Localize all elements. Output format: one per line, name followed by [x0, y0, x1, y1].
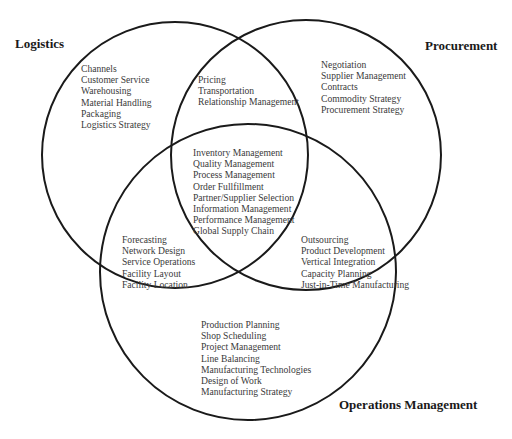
list-item: Manufacturing Technologies	[201, 364, 311, 375]
list-item: Shop Scheduling	[201, 330, 311, 341]
list-item: Negotiation	[321, 59, 406, 70]
list-item: Information Management	[193, 203, 295, 214]
list-item: Capacity Planning	[301, 268, 409, 279]
list-item: Manufacturing Strategy	[201, 386, 311, 397]
operations-only-list: Production Planning Shop Scheduling Proj…	[201, 319, 311, 397]
list-item: Design of Work	[201, 375, 311, 386]
list-item: Partner/Supplier Selection	[193, 192, 295, 203]
list-item: Outsourcing	[301, 234, 409, 245]
list-item: Global Supply Chain	[193, 225, 295, 236]
list-item: Contracts	[321, 81, 406, 92]
list-item: Material Handling	[81, 97, 152, 108]
list-item: Supplier Management	[321, 70, 406, 81]
list-item: Quality Management	[193, 158, 295, 169]
operations-title: Operations Management	[339, 397, 477, 413]
list-item: Vertical Integration	[301, 256, 409, 267]
list-item: Order Fullfillment	[193, 181, 295, 192]
logistics-operations-list: Forecasting Network Design Service Opera…	[122, 234, 195, 290]
procurement-operations-list: Outsourcing Product Development Vertical…	[301, 234, 409, 290]
list-item: Production Planning	[201, 319, 311, 330]
list-item: Project Management	[201, 341, 311, 352]
list-item: Product Development	[301, 245, 409, 256]
list-item: Service Operations	[122, 256, 195, 267]
list-item: Logistics Strategy	[81, 119, 152, 130]
list-item: Channels	[81, 63, 152, 74]
list-item: Transportation	[198, 85, 299, 96]
list-item: Packaging	[81, 108, 152, 119]
list-item: Line Balancing	[201, 353, 311, 364]
procurement-title: Procurement	[425, 38, 497, 54]
list-item: Just-in-Time Manufacturing	[301, 279, 409, 290]
list-item: Procurement Strategy	[321, 104, 406, 115]
list-item: Warehousing	[81, 85, 152, 96]
list-item: Facility Location	[122, 279, 195, 290]
list-item: Network Design	[122, 245, 195, 256]
list-item: Pricing	[198, 74, 299, 85]
logistics-procurement-list: Pricing Transportation Relationship Mana…	[198, 74, 299, 108]
list-item: Customer Service	[81, 74, 152, 85]
logistics-only-list: Channels Customer Service Warehousing Ma…	[81, 63, 152, 130]
list-item: Inventory Management	[193, 147, 295, 158]
all-three-list: Inventory Management Quality Management …	[193, 147, 295, 237]
list-item: Commodity Strategy	[321, 93, 406, 104]
list-item: Relationship Management	[198, 96, 299, 107]
procurement-only-list: Negotiation Supplier Management Contract…	[321, 59, 406, 115]
list-item: Performance Management	[193, 214, 295, 225]
list-item: Process Management	[193, 169, 295, 180]
list-item: Forecasting	[122, 234, 195, 245]
list-item: Facility Layout	[122, 268, 195, 279]
logistics-title: Logistics	[15, 36, 64, 52]
